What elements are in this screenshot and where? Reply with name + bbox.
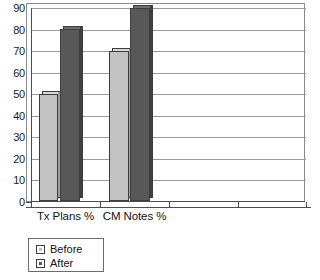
plot-area	[31, 8, 305, 202]
bar-face	[109, 51, 129, 201]
y-tick-label: 60	[3, 68, 25, 79]
y-tick-label: 70	[3, 46, 25, 57]
y-axis: 90 80 70 60 50 40 30 20 10 0	[0, 0, 25, 210]
bar-side-face	[150, 5, 153, 198]
legend-entry-after: After	[36, 257, 103, 270]
y-tick-label: 50	[3, 89, 25, 100]
y-tick-label: 0	[3, 197, 25, 208]
x-tick-mark	[31, 202, 32, 208]
x-tick-mark	[238, 202, 239, 208]
bar-tx-plans-after	[60, 29, 80, 201]
y-tick-label: 10	[3, 175, 25, 186]
x-tick-mark	[169, 202, 170, 208]
y-tick-label: 80	[3, 25, 25, 36]
y-tick-label: 30	[3, 132, 25, 143]
x-tick-mark	[100, 202, 101, 208]
x-tick-label-tx-plans: Tx Plans %	[31, 210, 100, 223]
bar-face	[39, 94, 58, 201]
legend-swatch-after-icon	[36, 259, 45, 268]
bar-tx-plans-before	[39, 94, 58, 201]
bar-side-face	[80, 26, 83, 198]
x-tick-mark	[306, 202, 307, 208]
chart-legend: Before After	[28, 238, 104, 272]
bar-face	[60, 29, 80, 201]
legend-label-after: After	[50, 258, 73, 269]
legend-label-before: Before	[50, 244, 82, 255]
bar-cm-notes-before	[109, 51, 129, 201]
bar-face	[130, 8, 150, 201]
legend-swatch-before-icon	[36, 245, 45, 254]
bar-cm-notes-after	[130, 8, 150, 201]
y-tick-label: 20	[3, 154, 25, 165]
gridline	[32, 8, 306, 9]
y-tick-label: 40	[3, 111, 25, 122]
x-tick-label-cm-notes: CM Notes %	[100, 210, 169, 223]
bar-chart: 90 80 70 60 50 40 30 20 10 0	[0, 0, 320, 280]
legend-entry-before: Before	[36, 243, 103, 256]
y-tick-label: 90	[3, 3, 25, 14]
